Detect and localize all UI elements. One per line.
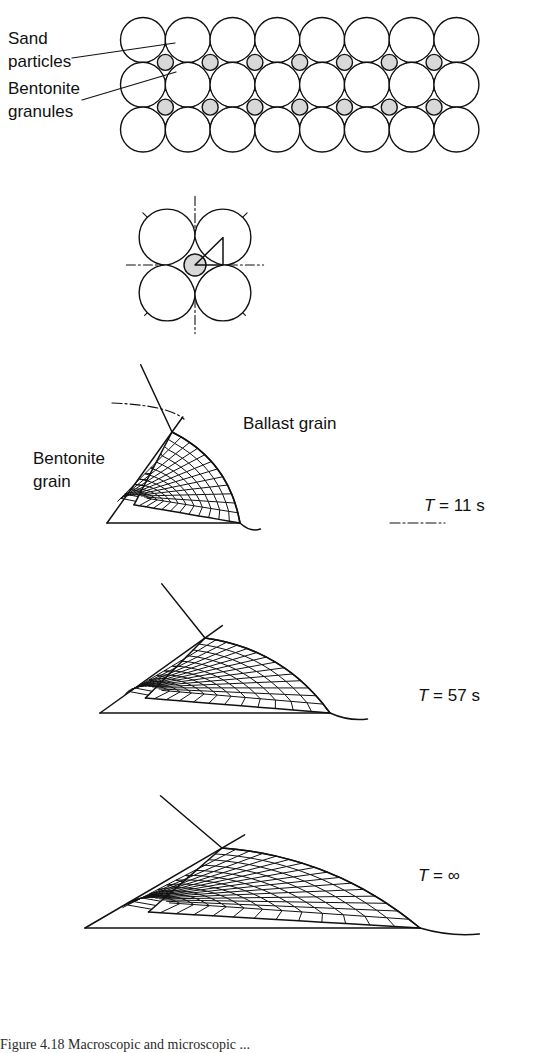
bentonite-grain-label-line2: grain xyxy=(33,472,71,491)
ballast-grain-label: Ballast grain xyxy=(243,414,337,433)
granule-body xyxy=(247,54,263,70)
bentonite-edge xyxy=(85,835,245,928)
granule-body xyxy=(381,99,397,115)
granule-body xyxy=(202,54,218,70)
granule-body xyxy=(426,99,442,115)
sand-particles-label-line1: Sand xyxy=(8,29,48,48)
granule-body xyxy=(426,54,442,70)
bentonite-granules-label-line2: granules xyxy=(8,102,73,121)
granule-body xyxy=(157,54,173,70)
mesh-spoke xyxy=(134,505,240,523)
mesh-spoke xyxy=(136,863,303,899)
fe-mesh xyxy=(125,638,330,713)
panel-mesh-11s: T = 11 s xyxy=(107,365,485,530)
granule-body xyxy=(247,99,263,115)
time-label-value: = ∞ xyxy=(428,866,460,885)
mesh-ring xyxy=(222,848,420,928)
mesh-ring xyxy=(161,454,211,518)
granule-body xyxy=(202,99,218,115)
granule-body xyxy=(336,99,352,115)
time-label-value: = 11 s xyxy=(434,496,484,515)
panel-unit-cell xyxy=(126,196,263,333)
mesh-spoke xyxy=(148,912,420,928)
time-label: T = ∞ xyxy=(418,866,460,885)
bentonite-granules-label-line1: Bentonite xyxy=(8,79,80,98)
mesh-spoke xyxy=(145,698,330,713)
granule-body xyxy=(157,99,173,115)
granule-body xyxy=(336,54,352,70)
fe-mesh xyxy=(123,848,420,928)
granule-body xyxy=(292,99,308,115)
figure-caption: Figure 4.18 Macroscopic and microscopic … xyxy=(0,1036,541,1053)
panel-mesh-57s: T = 57 s xyxy=(100,584,480,720)
symmetry-arc-dashdot xyxy=(112,403,184,419)
sand-particles-label-line2: particles xyxy=(8,52,71,71)
time-label: T = 11 s xyxy=(424,496,485,515)
bentonite-grain-label-line1: Bentonite xyxy=(33,449,105,468)
time-label: T = 57 s xyxy=(418,686,480,705)
panel-mesh-inf: T = ∞ xyxy=(85,796,479,935)
time-label-value: = 57 s xyxy=(428,686,480,705)
granule-body xyxy=(381,54,397,70)
ballast-boundary xyxy=(141,365,261,530)
mesh-ring xyxy=(168,439,229,521)
granule-body xyxy=(292,54,308,70)
mesh-spoke xyxy=(169,903,409,919)
fe-mesh xyxy=(118,432,240,523)
mesh-spoke xyxy=(124,455,205,497)
panel-circle-packing xyxy=(121,18,479,153)
